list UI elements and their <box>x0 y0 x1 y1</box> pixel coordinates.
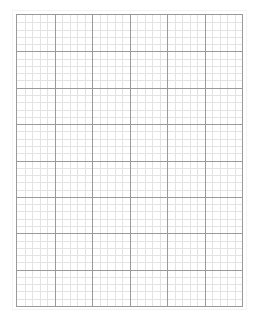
graph-paper-grid <box>16 14 243 307</box>
grid-lines <box>17 15 242 306</box>
